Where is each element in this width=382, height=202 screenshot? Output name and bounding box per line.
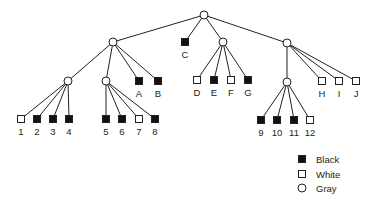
- black-node-square-icon: [211, 77, 218, 84]
- legend-label-black: Black: [316, 154, 339, 165]
- white-node-square-icon: [228, 77, 235, 84]
- tree-edges: [21, 15, 356, 120]
- node-label-10: 10: [272, 127, 283, 138]
- node-label-9: 9: [258, 127, 263, 138]
- black-node-square-icon: [258, 117, 265, 124]
- node-label-J: J: [354, 88, 359, 99]
- black-node-square-icon: [274, 117, 281, 124]
- edge-root-M: [204, 15, 223, 42]
- white-node-square-icon: [194, 77, 201, 84]
- black-node-square-icon: [50, 116, 57, 123]
- white-node-square-icon: [353, 78, 360, 85]
- black-node-square-icon: [136, 78, 143, 85]
- node-label-11: 11: [289, 127, 299, 138]
- gray-node-circle-icon: [102, 77, 110, 85]
- black-node-square-icon: [155, 78, 162, 85]
- gray-node-circle-icon: [200, 11, 208, 19]
- node-label-F: F: [228, 87, 234, 98]
- node-label-6: 6: [119, 126, 124, 137]
- node-label-8: 8: [152, 126, 157, 137]
- node-label-5: 5: [103, 126, 108, 137]
- node-label-4: 4: [66, 126, 71, 137]
- gray-node-circle-icon: [283, 78, 291, 86]
- white-node-square-icon: [336, 78, 343, 85]
- edge-LM-n8: [106, 81, 155, 119]
- edge-RI-n9: [261, 82, 287, 120]
- node-label-3: 3: [50, 126, 55, 137]
- black-node-square-icon: [119, 116, 126, 123]
- edge-L-LM: [106, 42, 113, 81]
- node-label-I: I: [338, 88, 341, 99]
- black-node-square-icon: [291, 117, 298, 124]
- black-node-square-icon: [66, 116, 73, 123]
- legend-label-white: White: [316, 169, 340, 180]
- node-label-H: H: [319, 88, 326, 99]
- tree-diagram: CABDEFGHIJ123456789101112 BlackWhiteGray: [0, 0, 382, 202]
- node-label-7: 7: [136, 126, 141, 137]
- white-node-square-icon: [319, 78, 326, 85]
- node-label-1: 1: [18, 126, 23, 137]
- black-node-square-icon: [34, 116, 41, 123]
- legend-label-gray: Gray: [316, 183, 337, 194]
- white-node-square-icon: [136, 116, 143, 123]
- edge-L-LL: [68, 42, 113, 81]
- white-node-square-icon: [18, 116, 25, 123]
- black-node-square-icon: [182, 39, 189, 46]
- gray-node-circle-icon: [64, 77, 72, 85]
- node-label-2: 2: [34, 126, 39, 137]
- legend-black-square-icon: [299, 156, 306, 163]
- edge-root-R: [204, 15, 287, 43]
- node-label-C: C: [182, 49, 189, 60]
- node-labels: CABDEFGHIJ123456789101112: [18, 49, 358, 138]
- edge-root-C: [185, 15, 204, 42]
- black-node-square-icon: [152, 116, 159, 123]
- edge-root-L: [113, 15, 204, 42]
- black-node-square-icon: [103, 116, 110, 123]
- node-label-B: B: [155, 88, 161, 99]
- edge-R-I: [287, 43, 339, 81]
- legend-white-square-icon: [299, 171, 306, 178]
- gray-node-circle-icon: [219, 38, 227, 46]
- edge-LL-n4: [68, 81, 69, 119]
- node-label-12: 12: [305, 127, 316, 138]
- edge-R-J: [287, 43, 356, 81]
- edge-M-D: [197, 42, 223, 80]
- edge-RI-n10: [277, 82, 287, 120]
- white-node-square-icon: [307, 117, 314, 124]
- edge-LM-n7: [106, 81, 139, 119]
- legend-gray-circle-icon: [298, 184, 306, 192]
- black-node-square-icon: [245, 77, 252, 84]
- gray-node-circle-icon: [109, 38, 117, 46]
- node-label-E: E: [211, 87, 217, 98]
- node-label-A: A: [136, 88, 143, 99]
- node-label-D: D: [194, 87, 201, 98]
- gray-node-circle-icon: [283, 39, 291, 47]
- node-label-G: G: [244, 87, 251, 98]
- edge-R-H: [287, 43, 322, 81]
- legend: BlackWhiteGray: [298, 154, 340, 194]
- edge-LL-n2: [37, 81, 68, 119]
